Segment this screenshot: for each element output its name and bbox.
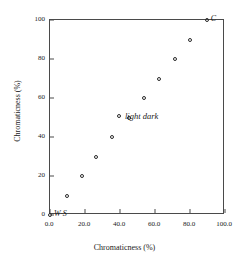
- y-axis-tick-label: 80: [23, 54, 45, 62]
- y-axis-tick-label: 100: [23, 15, 45, 23]
- x-axis-title: Chromaticness (%): [0, 243, 249, 253]
- data-point: [157, 77, 161, 81]
- x-axis-tick: [85, 209, 86, 213]
- data-point: [205, 18, 209, 22]
- point-annotation: C: [211, 14, 216, 23]
- y-axis-tick-label: 40: [23, 132, 45, 140]
- data-point: [65, 194, 69, 198]
- data-point: [188, 38, 192, 42]
- data-point: [94, 155, 98, 159]
- x-axis-tick: [190, 209, 191, 213]
- data-point: [173, 57, 177, 61]
- legend-label: light dark: [125, 111, 158, 121]
- y-axis-tick-label: 0: [23, 210, 45, 218]
- x-axis-tick-label: 60.0: [148, 220, 160, 228]
- data-point: [80, 174, 84, 178]
- chart-legend: light dark: [117, 111, 158, 121]
- y-axis-tick: [50, 59, 54, 60]
- y-axis-tick-label: 20: [23, 171, 45, 179]
- y-axis-tick: [50, 20, 54, 21]
- x-axis-tick: [155, 209, 156, 213]
- y-axis-tick: [50, 176, 54, 177]
- x-axis-tick-label: 40.0: [113, 220, 125, 228]
- point-annotation: W·S: [54, 209, 67, 218]
- open-circle-marker-icon: [117, 114, 121, 118]
- x-axis-tick: [50, 209, 51, 213]
- x-axis-tick: [225, 209, 226, 213]
- y-axis-tick: [50, 137, 54, 138]
- y-axis-tick-label: 60: [23, 93, 45, 101]
- x-axis-tick-label: 20.0: [78, 220, 90, 228]
- y-axis-tick: [50, 98, 54, 99]
- y-axis-title: Chromaticness (%): [13, 41, 23, 181]
- data-point: [110, 135, 114, 139]
- x-axis-tick: [120, 209, 121, 213]
- x-axis-tick-label: 100.0: [216, 220, 232, 228]
- chart-figure: Chromaticness (%) 0.020.040.060.080.0100…: [0, 0, 249, 263]
- x-axis-tick-label: 0.0: [45, 220, 54, 228]
- x-axis-tick-label: 80.0: [183, 220, 195, 228]
- data-point: [142, 96, 146, 100]
